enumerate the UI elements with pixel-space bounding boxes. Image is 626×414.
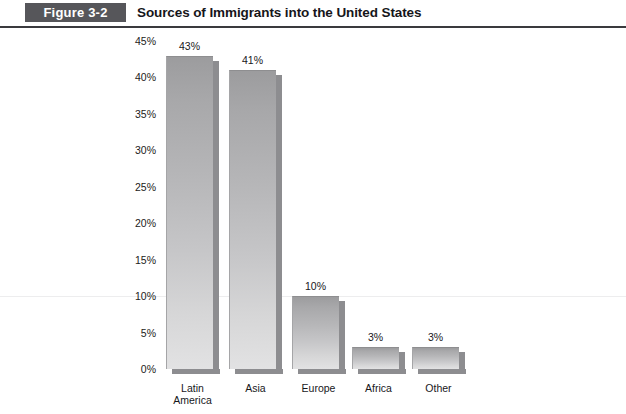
figure-title: Sources of Immigrants into the United St… xyxy=(137,2,421,22)
bar-group[interactable]: 41%Asia xyxy=(229,30,283,414)
bar-value-label: 41% xyxy=(223,55,283,66)
bar-group[interactable]: 43%Latin America xyxy=(166,30,220,414)
bar-chart: 45%40%35%30%25%20%15%10%5%0% 43%Latin Am… xyxy=(0,30,626,414)
bar-shadow-right xyxy=(213,61,219,374)
x-axis-tick-label: Other xyxy=(401,382,477,394)
figure-number-badge: Figure 3-2 xyxy=(25,3,126,22)
bar[interactable] xyxy=(412,347,459,369)
header-divider xyxy=(0,26,626,28)
bar[interactable] xyxy=(229,70,276,369)
bar-value-label: 3% xyxy=(406,332,466,343)
bar[interactable] xyxy=(352,347,399,369)
bar-value-label: 10% xyxy=(286,281,346,292)
bar[interactable] xyxy=(166,56,213,369)
bar-shadow-right xyxy=(459,352,465,374)
bar[interactable] xyxy=(292,296,339,369)
figure-header: Figure 3-2 Sources of Immigrants into th… xyxy=(0,0,626,30)
bar-group[interactable]: 3%Other xyxy=(412,30,466,414)
bar-group[interactable]: 3%Africa xyxy=(352,30,406,414)
bar-shadow-right xyxy=(276,75,282,374)
bar-shadow-right xyxy=(339,301,345,374)
bar-shadow-right xyxy=(399,352,405,374)
bar-value-label: 43% xyxy=(160,41,220,52)
figure-page: Figure 3-2 Sources of Immigrants into th… xyxy=(0,0,626,414)
bar-value-label: 3% xyxy=(346,332,406,343)
bars-layer: 43%Latin America41%Asia10%Europe3%Africa… xyxy=(0,30,626,414)
bar-group[interactable]: 10%Europe xyxy=(292,30,346,414)
